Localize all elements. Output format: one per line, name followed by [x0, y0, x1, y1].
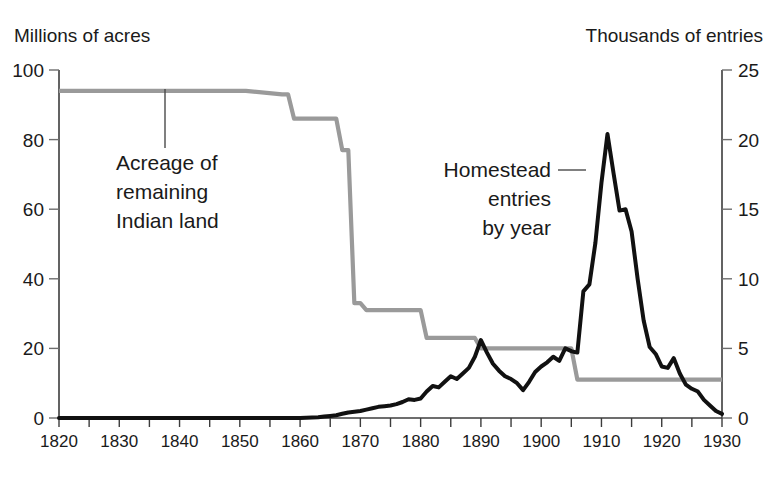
x-axis-tick-label: 1920: [643, 432, 681, 451]
x-axis-tick-label: 1930: [703, 432, 741, 451]
indian-land-label-line1: Acreage of: [116, 151, 218, 174]
x-axis-tick-label: 1880: [402, 432, 440, 451]
left-axis-tick-label: 40: [23, 269, 44, 290]
right-axis-tick-label: 25: [738, 60, 759, 81]
right-axis-title: Thousands of entries: [586, 25, 763, 46]
right-axis-tick-label: 20: [738, 130, 759, 151]
indian-land-label-line3: Indian land: [116, 209, 219, 232]
x-axis-tick-label: 1820: [40, 432, 78, 451]
x-axis-tick-label: 1850: [221, 432, 259, 451]
left-axis-tick-label: 60: [23, 199, 44, 220]
right-axis-tick-label: 0: [738, 408, 749, 429]
homestead-label-line2: entries: [488, 187, 551, 210]
x-axis-tick-label: 1890: [462, 432, 500, 451]
left-axis-tick-label: 100: [12, 60, 44, 81]
x-axis-tick-label: 1840: [161, 432, 199, 451]
left-axis-tick-label: 0: [33, 408, 44, 429]
x-axis-tick-label: 1830: [100, 432, 138, 451]
indian-land-label-line2: remaining: [116, 180, 208, 203]
x-axis-tick-label: 1900: [522, 432, 560, 451]
left-axis-tick-label: 80: [23, 130, 44, 151]
homestead-label-line1: Homestead: [444, 158, 551, 181]
x-axis-tick-label: 1910: [583, 432, 621, 451]
homestead-label-line3: by year: [482, 216, 551, 239]
x-axis-tick-label: 1870: [341, 432, 379, 451]
right-axis-tick-label: 5: [738, 338, 749, 359]
chart-background: [0, 0, 777, 485]
left-axis-tick-label: 20: [23, 338, 44, 359]
x-axis-tick-label: 1860: [281, 432, 319, 451]
left-axis-title: Millions of acres: [14, 25, 150, 46]
chart-canvas: Millions of acres Thousands of entries 0…: [0, 0, 777, 485]
right-axis-tick-label: 15: [738, 199, 759, 220]
chart-container: Millions of acres Thousands of entries 0…: [0, 0, 777, 485]
right-axis-tick-label: 10: [738, 269, 759, 290]
